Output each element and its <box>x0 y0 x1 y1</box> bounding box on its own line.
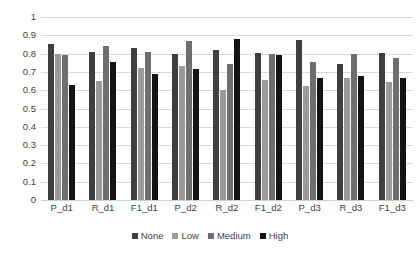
legend-label: Low <box>181 231 198 241</box>
y-axis-tick-label: 0 <box>31 195 36 205</box>
bar <box>310 62 316 200</box>
bar-group <box>165 17 206 200</box>
y-axis-tick-label: 0.9 <box>23 31 36 41</box>
legend: NoneLowMediumHigh <box>0 231 420 241</box>
bar-groups <box>41 17 413 200</box>
bar <box>296 40 302 200</box>
bar <box>110 62 116 200</box>
bar <box>55 54 61 200</box>
bar <box>172 54 178 200</box>
bar <box>193 69 199 200</box>
bar-group <box>289 17 330 200</box>
x-axis-tick-label: R_d3 <box>330 203 371 213</box>
legend-swatch-icon <box>132 233 138 239</box>
bar-group <box>372 17 413 200</box>
legend-item[interactable]: Low <box>172 231 198 241</box>
y-axis-tick-label: 0.2 <box>23 159 36 169</box>
x-axis-tick-label: P_d2 <box>165 203 206 213</box>
bar-group <box>248 17 289 200</box>
bar <box>234 39 240 200</box>
bar <box>262 80 268 200</box>
bar <box>152 74 158 200</box>
bar <box>69 85 75 200</box>
legend-label: Medium <box>217 231 251 241</box>
y-axis-tick-label: 0.6 <box>23 85 36 95</box>
legend-swatch-icon <box>208 233 214 239</box>
y-axis-tick-label: 0.4 <box>23 122 36 132</box>
bar <box>213 50 219 200</box>
legend-swatch-icon <box>260 233 266 239</box>
bar <box>276 55 282 200</box>
x-axis-tick-label: R_d2 <box>206 203 247 213</box>
bar <box>386 82 392 200</box>
x-axis-tick-label: F1_d3 <box>372 203 413 213</box>
plot-area <box>41 17 413 200</box>
bar <box>358 76 364 200</box>
bar <box>48 44 54 200</box>
bar <box>379 53 385 200</box>
legend-item[interactable]: High <box>260 231 289 241</box>
y-axis-tick-labels: 00.10.20.30.40.50.60.70.80.91 <box>0 17 36 200</box>
x-axis-tick-label: F1_d2 <box>248 203 289 213</box>
bar <box>269 54 275 200</box>
bar <box>96 81 102 200</box>
legend-label: None <box>141 231 164 241</box>
gridline <box>41 200 413 201</box>
bar-group <box>206 17 247 200</box>
bar <box>179 66 185 201</box>
bar <box>145 52 151 200</box>
y-axis-tick-label: 0.5 <box>23 104 36 114</box>
legend-label: High <box>269 231 289 241</box>
legend-item[interactable]: Medium <box>208 231 251 241</box>
legend-swatch-icon <box>172 233 178 239</box>
bar-group <box>330 17 371 200</box>
bar-group <box>82 17 123 200</box>
x-axis-tick-label: P_d1 <box>41 203 82 213</box>
bar <box>337 64 343 200</box>
y-axis-tick-label: 0.1 <box>23 177 36 187</box>
x-axis-tick-label: R_d1 <box>82 203 123 213</box>
bar <box>400 78 406 200</box>
bar <box>138 68 144 200</box>
bar-group <box>41 17 82 200</box>
bar <box>344 78 350 200</box>
bar <box>317 78 323 200</box>
x-axis-tick-labels: P_d1R_d1F1_d1P_d2R_d2F1_d2P_d3R_d3F1_d3 <box>41 203 413 213</box>
x-axis-tick-label: P_d3 <box>289 203 330 213</box>
bar <box>62 55 68 200</box>
bar-group <box>124 17 165 200</box>
bar <box>220 90 226 200</box>
bar-chart: 00.10.20.30.40.50.60.70.80.91 P_d1R_d1F1… <box>0 0 420 255</box>
bar <box>351 54 357 200</box>
x-axis-tick-label: F1_d1 <box>124 203 165 213</box>
legend-item[interactable]: None <box>132 231 164 241</box>
bar <box>89 52 95 200</box>
y-axis-tick-label: 1 <box>31 12 36 22</box>
y-axis-tick-label: 0.8 <box>23 49 36 59</box>
bar <box>131 48 137 200</box>
y-axis-tick-label: 0.7 <box>23 67 36 77</box>
y-axis-tick-label: 0.3 <box>23 140 36 150</box>
bar <box>227 64 233 200</box>
bar <box>103 46 109 200</box>
bar <box>393 58 399 200</box>
bar <box>255 53 261 200</box>
bar <box>303 86 309 200</box>
bar <box>186 41 192 200</box>
